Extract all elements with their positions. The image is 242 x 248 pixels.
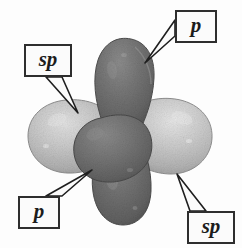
orbital-diagram-figure: p sp p sp (0, 0, 242, 248)
callout-label-sp-top-left: sp (39, 49, 58, 70)
callout-label-p-top-right: p (191, 15, 202, 36)
leader-p-top-right (145, 20, 175, 63)
callout-box-p-bottom-left: p (18, 196, 60, 229)
callout-box-sp-top-left: sp (24, 44, 72, 77)
callout-box-sp-bottom-right: sp (187, 211, 235, 244)
callout-box-p-top-right: p (175, 10, 217, 43)
callout-label-p-bottom-left: p (34, 201, 45, 222)
callout-label-sp-bottom-right: sp (202, 216, 221, 237)
leader-sp-bottom-right (177, 174, 206, 211)
leader-p-bottom-left (46, 170, 92, 196)
